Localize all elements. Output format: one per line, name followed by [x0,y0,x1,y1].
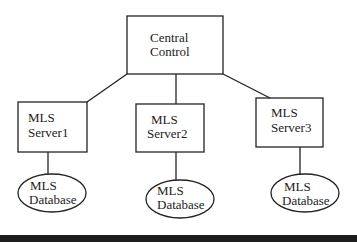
edge-central-server1 [87,74,127,102]
server2-label-1: MLS [151,112,178,127]
db3-label-1: MLS [284,179,311,194]
central-label-1: Central [150,30,189,45]
server1-label-2: Server1 [28,125,68,140]
db1-label-1: MLS [30,178,57,193]
edge-central-server3 [223,74,270,98]
architecture-diagram: Central Control MLS Server1 MLS Server2 … [0,0,357,242]
db3-label-2: Database [282,193,330,208]
db2-label-1: MLS [157,183,184,198]
bottom-border-bar [0,235,357,242]
server3-label-1: MLS [271,105,298,120]
server2-label-2: Server2 [147,126,187,141]
server3-label-2: Server3 [271,120,311,135]
server1-label-1: MLS [28,110,55,125]
db2-label-2: Database [157,197,205,212]
central-label-2: Control [150,44,190,59]
db1-label-2: Database [29,192,77,207]
